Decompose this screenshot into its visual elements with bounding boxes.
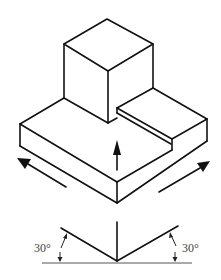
right-axis-arrow (159, 161, 210, 192)
isometric-angle-diagram: 30° 30° (34, 222, 199, 263)
step-block (108, 88, 207, 150)
angle-arrow-icon (169, 232, 173, 238)
base-slab (20, 98, 207, 203)
angle-arrow-icon (63, 233, 67, 239)
step-ledge-line (117, 113, 171, 144)
arrow-head-up-icon (113, 140, 121, 155)
angle-arrow-icon (58, 257, 63, 262)
angle-arrow-icon (173, 257, 178, 262)
left-angle-label: 30° (34, 241, 51, 255)
right-angle-label: 30° (182, 241, 199, 255)
left-axis-arrow (17, 158, 66, 187)
top-cube (64, 19, 153, 123)
slab-bottom-left (20, 146, 117, 203)
vertical-axis-arrow (113, 140, 121, 170)
slab-back-left (20, 98, 64, 124)
cube-base-left (64, 98, 108, 123)
left-30-line (61, 228, 117, 261)
isometric-drawing: 30° 30° (0, 0, 221, 280)
cube-top-face (64, 19, 153, 71)
slab-front-right-top (117, 150, 172, 182)
step-front-top (117, 108, 172, 139)
arrow-head-up-left-icon (17, 158, 31, 169)
slab-front-left-top (20, 124, 117, 182)
step-right-top (172, 119, 207, 139)
right-30-line (117, 226, 178, 261)
arrow-head-up-right-icon (197, 161, 210, 172)
cube-to-step (108, 118, 117, 123)
step-back-edge (153, 88, 207, 119)
step-left-top (117, 88, 153, 108)
